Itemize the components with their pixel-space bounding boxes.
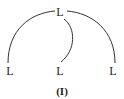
edge-top-to-left — [8, 11, 55, 63]
diagram-caption: (I) — [56, 85, 68, 98]
node-bottom-right: L — [109, 64, 116, 78]
edge-top-to-right — [67, 11, 115, 63]
node-top: L — [56, 5, 63, 19]
tree-diagram: L L L L (I) — [0, 0, 124, 99]
node-bottom-middle: L — [56, 64, 63, 78]
node-bottom-left: L — [6, 64, 13, 78]
edge-top-to-middle — [61, 19, 73, 62]
